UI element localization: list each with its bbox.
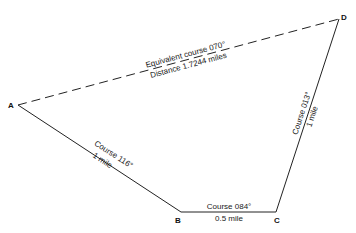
point-label-a: A (8, 101, 14, 110)
leg-bc-distance-label: 0.5 mile (215, 214, 244, 223)
leg-bc-course-label: Course 084° (207, 202, 252, 211)
course-diagram: A B C D Equivalent course 070° Distance … (0, 0, 356, 233)
point-label-b: B (175, 216, 181, 225)
leg-a-d-equivalent (18, 19, 339, 105)
point-label-c: C (274, 216, 280, 225)
diagram-canvas: A B C D Equivalent course 070° Distance … (0, 0, 356, 233)
point-label-d: D (341, 13, 347, 22)
